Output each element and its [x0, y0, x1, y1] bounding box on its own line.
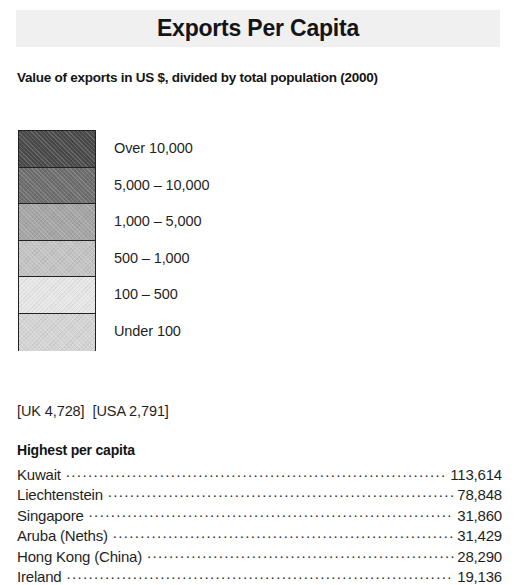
section-heading-highest-per-capita: Highest per capita [17, 442, 135, 458]
country-value: 78,848 [457, 486, 502, 503]
legend-label-list: Over 10,000 5,000 – 10,000 1,000 – 5,000… [114, 130, 374, 351]
dot-leader [66, 567, 454, 582]
ranked-country-list: Kuwait 113,614 Liechtenstein 78,848 Sing… [17, 465, 502, 585]
swatch-texture [19, 168, 95, 204]
list-item: Liechtenstein 78,848 [17, 485, 502, 505]
legend-swatch [19, 168, 95, 205]
legend-label: 500 – 1,000 [114, 240, 374, 277]
legend-swatch-stack [18, 130, 96, 351]
country-value: 28,290 [457, 548, 502, 565]
legend-label: 1,000 – 5,000 [114, 203, 374, 240]
list-item: Singapore 31,860 [17, 506, 502, 526]
country-name: Aruba (Neths) [17, 527, 108, 544]
legend-swatch [19, 241, 95, 278]
swatch-texture [19, 277, 95, 313]
country-name: Hong Kong (China) [17, 548, 142, 565]
dot-leader [147, 547, 454, 562]
legend-swatch [19, 204, 95, 241]
country-name: Liechtenstein [17, 486, 103, 503]
swatch-texture [19, 314, 95, 351]
dot-leader [113, 526, 455, 541]
usa-reference-value: [USA 2,791] [93, 403, 169, 419]
legend-swatch [19, 277, 95, 314]
country-name: Singapore [17, 507, 84, 524]
swatch-texture [19, 241, 95, 277]
country-name: Kuwait [17, 466, 61, 483]
legend-swatch [19, 131, 95, 168]
page-subtitle: Value of exports in US $, divided by tot… [17, 70, 378, 85]
list-item: Hong Kong (China) 28,290 [17, 547, 502, 567]
dot-leader [108, 485, 455, 500]
legend-label: Under 100 [114, 313, 374, 350]
swatch-texture [19, 204, 95, 240]
page-title: Exports Per Capita [16, 10, 500, 47]
reference-values: [UK 4,728][USA 2,791] [17, 403, 169, 419]
swatch-texture [19, 131, 95, 167]
legend-label: 5,000 – 10,000 [114, 167, 374, 204]
uk-reference-value: [UK 4,728] [17, 403, 85, 419]
country-value: 31,429 [457, 527, 502, 544]
dot-leader [66, 465, 447, 480]
list-item: Kuwait 113,614 [17, 465, 502, 485]
dot-leader [89, 506, 455, 521]
country-value: 31,860 [457, 507, 502, 524]
country-name: Ireland [17, 568, 61, 585]
legend-swatch [19, 314, 95, 351]
legend-label: 100 – 500 [114, 276, 374, 313]
list-item: Aruba (Neths) 31,429 [17, 526, 502, 546]
legend-label: Over 10,000 [114, 130, 374, 167]
country-value: 113,614 [450, 466, 502, 483]
list-item: Ireland 19,136 [17, 567, 502, 585]
country-value: 19,136 [457, 568, 502, 585]
